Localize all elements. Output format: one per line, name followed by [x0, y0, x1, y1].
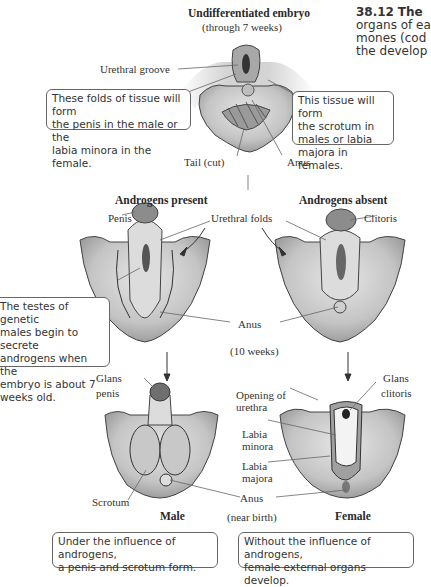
- callout-folds: These folds of tissue will form the peni…: [46, 89, 191, 130]
- female-birth-illustration: [280, 402, 405, 499]
- labia-minora-label: Labia minora: [242, 428, 273, 452]
- figure-number: 38.12: [356, 5, 394, 19]
- caption-line: the develop: [356, 45, 431, 58]
- penis-label: Penis: [108, 212, 132, 224]
- callout-testes: The testes of genetic males begin to sec…: [0, 297, 110, 367]
- opening-of-urethra-label: Opening of urethra: [236, 389, 286, 413]
- callout-tissue: This tissue will form the scrotum in mal…: [292, 91, 394, 145]
- urethral-folds-label: Urethral folds: [211, 212, 272, 224]
- urethral-groove-label: Urethral groove: [100, 63, 170, 75]
- female-10wk-illustration: [275, 209, 405, 342]
- female-title: Female: [335, 510, 371, 522]
- tail-cut-label: Tail (cut): [184, 156, 224, 168]
- callout-female-result: Without the influence of androgens, fema…: [238, 532, 414, 568]
- figure-caption: 38.12 The organs of ea mones (cod the de…: [356, 6, 431, 58]
- clitoris-label: Clitoris: [364, 212, 397, 224]
- androgens-absent-title: Androgens absent: [299, 194, 387, 206]
- callout-male-result: Under the influence of androgens, a peni…: [52, 532, 218, 568]
- anus-label: Anus: [238, 318, 261, 330]
- anus-label: Anus: [240, 492, 263, 504]
- near-birth-label: (near birth): [227, 511, 277, 523]
- scrotum-label: Scrotum: [92, 496, 129, 508]
- glans-clitoris-label: Glans clitoris: [381, 372, 412, 399]
- ten-weeks-label: (10 weeks): [230, 345, 279, 357]
- male-title: Male: [160, 510, 185, 522]
- embryo-subtitle: (through 7 weeks): [202, 21, 282, 33]
- androgens-present-title: Androgens present: [115, 194, 208, 206]
- embryo-title: Undifferentiated embryo: [188, 7, 310, 19]
- labia-majora-label: Labia majora: [242, 460, 273, 484]
- male-birth-illustration: [105, 383, 218, 498]
